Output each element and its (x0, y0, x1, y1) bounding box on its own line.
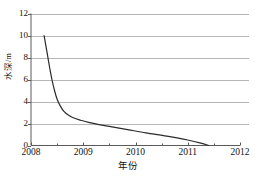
chart-container: 024681012 20082009201020112012 水深/m 年份 (0, 0, 255, 179)
x-axis-tick-label: 2012 (220, 147, 255, 158)
water-depth-curve (44, 36, 209, 146)
x-axis-tick-labels: 20082009201020112012 (0, 147, 255, 161)
x-axis-title: 年份 (0, 161, 255, 172)
gridlines-group (31, 15, 249, 125)
x-axis-tick-label: 2011 (168, 147, 208, 158)
y-axis-tick-label: 2 (6, 119, 28, 128)
x-axis-tick-label: 2009 (63, 147, 103, 158)
x-axis-tick-label: 2008 (11, 147, 51, 158)
y-axis-tick-label: 12 (6, 9, 28, 18)
y-axis-tick-label: 4 (6, 97, 28, 106)
y-axis-tick-label: 10 (6, 31, 28, 40)
y-axis-title: 水深/m (4, 45, 13, 89)
x-axis-tick-label: 2010 (116, 147, 156, 158)
